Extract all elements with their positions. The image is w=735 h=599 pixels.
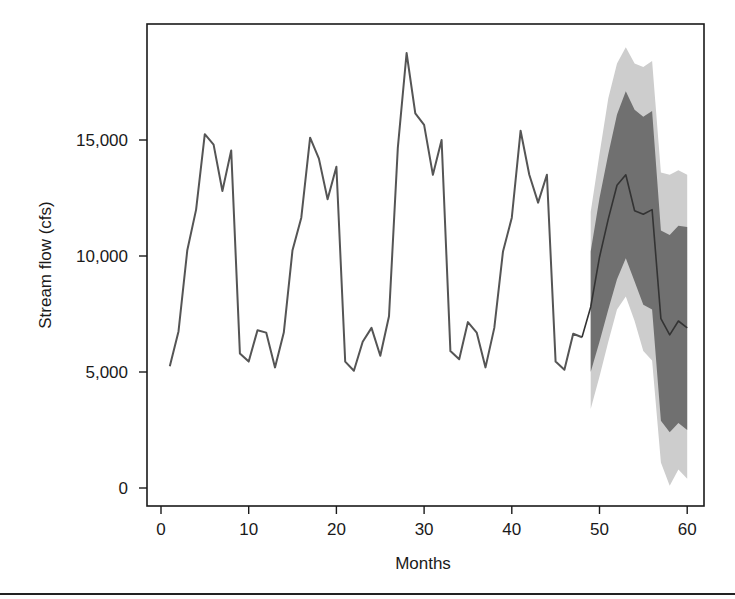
- y-tick-label: 5,000: [85, 363, 128, 382]
- x-axis-title: Months: [395, 554, 451, 573]
- y-axis-title: Stream flow (cfs): [36, 201, 55, 329]
- x-tick-label: 20: [327, 520, 346, 539]
- x-tick-label: 10: [239, 520, 258, 539]
- y-tick-label: 10,000: [76, 247, 128, 266]
- y-axis: 05,00010,00015,000: [76, 131, 147, 498]
- stream-flow-chart: 05,00010,00015,000 0102030405060 Months …: [0, 0, 735, 599]
- y-tick-label: 15,000: [76, 131, 128, 150]
- bottom-rule: [0, 593, 735, 595]
- x-tick-label: 60: [678, 520, 697, 539]
- x-axis: 0102030405060: [156, 506, 696, 539]
- x-tick-label: 40: [502, 520, 521, 539]
- prediction-interval-bands: [591, 47, 688, 486]
- x-tick-label: 50: [590, 520, 609, 539]
- observed-stream-flow-line: [170, 53, 582, 371]
- x-tick-label: 30: [415, 520, 434, 539]
- x-tick-label: 0: [156, 520, 165, 539]
- y-tick-label: 0: [119, 479, 128, 498]
